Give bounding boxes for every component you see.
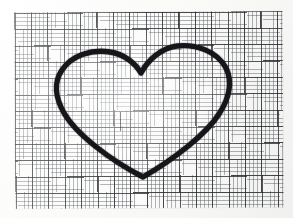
graph-paper-sheet <box>14 11 283 209</box>
stray-pencil-tick <box>120 112 121 131</box>
image-canvas <box>0 0 293 218</box>
